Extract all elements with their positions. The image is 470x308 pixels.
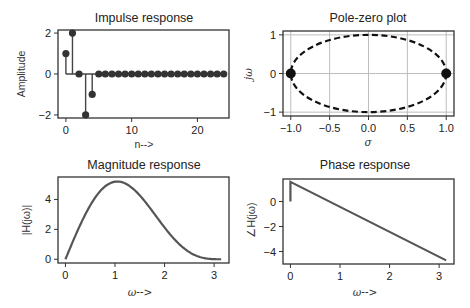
impulse-stems — [62, 29, 227, 118]
y-tick-label: −1 — [263, 106, 276, 118]
stem-marker — [181, 70, 188, 77]
phase-response-panel: Phase response 01230−2−4 ω--> ∠H(jω) — [245, 158, 454, 298]
magnitude-line — [65, 182, 221, 260]
y-tick-label: 2 — [45, 223, 51, 235]
stem-marker — [220, 70, 227, 77]
pole-zero-marker — [441, 69, 451, 79]
impulse-xlabel: n--> — [135, 138, 154, 150]
figure-canvas: Impulse response 0102020−2 n--> Amplitud… — [0, 0, 470, 308]
x-tick-label: 2 — [387, 270, 393, 282]
y-tick-label: −2 — [38, 109, 51, 121]
x-tick-label: −1.0 — [280, 122, 302, 134]
x-tick-label: 0 — [287, 270, 293, 282]
polezero-ylabel: jω — [242, 68, 254, 82]
polezero-xlabel: σ — [364, 136, 372, 148]
stem-marker — [108, 70, 115, 77]
stem-marker — [187, 70, 194, 77]
stem-marker — [161, 70, 168, 77]
x-tick-label: 10 — [126, 124, 138, 136]
stem-marker — [168, 70, 175, 77]
phase-title: Phase response — [320, 158, 410, 172]
stem-marker — [89, 91, 96, 98]
y-tick-label: −4 — [263, 246, 276, 258]
stem-marker — [135, 70, 142, 77]
phase-ticks: 01230−2−4 — [263, 196, 442, 283]
x-tick-label: 3 — [436, 270, 442, 282]
polezero-ticks: −1.0−0.50.00.51.010−1 — [263, 29, 453, 134]
stem-marker — [214, 70, 221, 77]
stem-marker — [128, 70, 135, 77]
x-tick-label: −0.5 — [319, 122, 341, 134]
stem-marker — [174, 70, 181, 77]
x-tick-label: 1 — [112, 269, 118, 281]
y-tick-label: 0 — [45, 68, 51, 80]
impulse-ticks: 0102020−2 — [38, 27, 203, 136]
y-tick-label: 4 — [45, 193, 51, 205]
pole-zero-marker — [286, 69, 296, 79]
x-tick-label: 0.5 — [400, 122, 415, 134]
phase-xlabel: ω--> — [353, 286, 377, 298]
stem-marker — [154, 70, 161, 77]
x-tick-label: 20 — [191, 124, 203, 136]
magnitude-ticks: 0123024 — [45, 193, 217, 281]
stem-marker — [75, 70, 82, 77]
y-tick-label: 2 — [45, 27, 51, 39]
y-tick-label: −2 — [263, 221, 276, 233]
stem-marker — [200, 70, 207, 77]
stem-marker — [141, 70, 148, 77]
stem-marker — [148, 70, 155, 77]
magnitude-curve — [65, 182, 221, 260]
magnitude-response-panel: Magnitude response 0123024 ω--> |H(jω)| — [20, 158, 229, 298]
x-tick-label: 0.0 — [361, 122, 376, 134]
phase-curve — [290, 182, 446, 261]
stem-marker — [121, 70, 128, 77]
magnitude-ylabel: |H(jω)| — [20, 205, 32, 236]
stem-marker — [207, 70, 214, 77]
stem-marker — [62, 50, 69, 57]
impulse-response-panel: Impulse response 0102020−2 n--> Amplitud… — [15, 11, 229, 150]
x-tick-label: 1.0 — [439, 122, 454, 134]
stem-marker — [95, 70, 102, 77]
polezero-content — [283, 31, 454, 116]
phase-line — [290, 182, 446, 261]
stem-marker — [115, 70, 122, 77]
pole-zero-panel: Pole-zero plot −1.0−0.50.00.51.010−1 σ j… — [242, 11, 454, 148]
phase-ylabel: ∠H(jω) — [245, 202, 257, 237]
y-tick-label: 0 — [270, 68, 276, 80]
polezero-title: Pole-zero plot — [329, 11, 407, 25]
magnitude-xlabel: ω--> — [128, 286, 152, 298]
y-tick-label: 0 — [45, 253, 51, 265]
x-tick-label: 0 — [62, 269, 68, 281]
x-tick-label: 0 — [63, 124, 69, 136]
impulse-ylabel: Amplitude — [15, 51, 27, 98]
y-tick-label: 1 — [270, 29, 276, 41]
x-tick-label: 2 — [162, 269, 168, 281]
y-tick-label: 0 — [270, 196, 276, 208]
impulse-title: Impulse response — [95, 11, 194, 25]
x-tick-label: 3 — [211, 269, 217, 281]
stem-marker — [102, 70, 109, 77]
x-tick-label: 1 — [337, 270, 343, 282]
stem-marker — [194, 70, 201, 77]
magnitude-title: Magnitude response — [87, 158, 200, 172]
